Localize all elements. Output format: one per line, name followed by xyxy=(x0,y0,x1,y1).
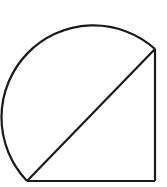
geometry-figure xyxy=(0,0,167,187)
hypotenuse xyxy=(27,49,155,181)
semicircle-arc xyxy=(1,25,155,181)
